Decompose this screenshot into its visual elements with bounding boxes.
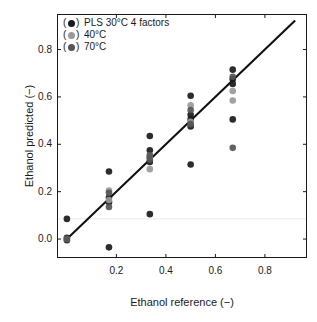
- legend: ()PLS 30°C 4 factors()40°C()70°C: [63, 17, 169, 53]
- legend-close-paren: ): [76, 41, 79, 52]
- legend-marker-icon: (): [63, 29, 81, 40]
- scatter-chart-figure: 0.00.20.40.60.8 0.20.40.60.8 Ethanol ref…: [0, 0, 317, 322]
- legend-item-0: ()PLS 30°C 4 factors: [63, 17, 169, 28]
- x-tick-label: 0.4: [146, 265, 186, 276]
- x-axis-title: Ethanol reference (−): [57, 296, 307, 308]
- legend-label: 70°C: [84, 41, 106, 52]
- legend-label: 40°C: [84, 29, 106, 40]
- legend-item-1: ()40°C: [63, 29, 169, 40]
- legend-marker-icon: (): [63, 17, 81, 28]
- legend-item-2: ()70°C: [63, 41, 169, 52]
- legend-close-paren: ): [76, 29, 79, 40]
- legend-label: PLS 30°C 4 factors: [84, 17, 169, 28]
- x-tick-label: 0.6: [195, 265, 235, 276]
- legend-dot-icon: [68, 20, 75, 27]
- legend-open-paren: (: [63, 29, 66, 40]
- x-tick-label: 0.8: [245, 265, 285, 276]
- legend-open-paren: (: [63, 41, 66, 52]
- x-tick-label: 0.2: [96, 265, 136, 276]
- legend-open-paren: (: [63, 17, 66, 28]
- legend-dot-icon: [68, 44, 75, 51]
- y-tick-label: 0.0: [22, 233, 52, 244]
- legend-marker-icon: (): [63, 41, 81, 52]
- legend-dot-icon: [68, 32, 75, 39]
- legend-close-paren: ): [76, 17, 79, 28]
- y-axis-title: Ethanol predicted (−): [23, 46, 35, 226]
